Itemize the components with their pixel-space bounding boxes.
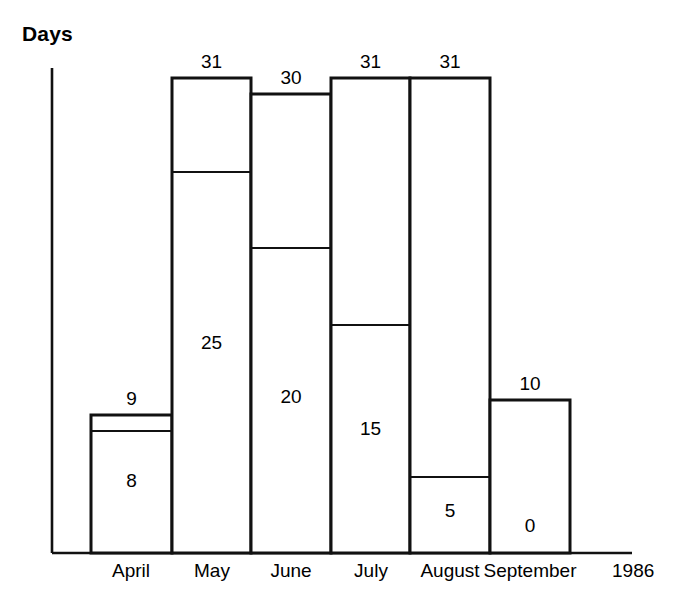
bar-july[interactable] bbox=[331, 78, 410, 553]
inner-label-august-5: 5 bbox=[410, 500, 490, 522]
inner-label-september-0: 0 bbox=[490, 515, 570, 537]
bar-may[interactable] bbox=[172, 78, 251, 553]
value-label-july: 31 bbox=[331, 51, 410, 73]
x-axis-year-label: 1986 bbox=[612, 560, 654, 582]
value-label-september: 10 bbox=[490, 373, 570, 395]
value-label-may: 31 bbox=[172, 51, 251, 73]
inner-label-april-8: 8 bbox=[91, 470, 172, 492]
value-label-april: 9 bbox=[91, 388, 172, 410]
bar-june[interactable] bbox=[251, 94, 331, 553]
chart-container: Days 9 31 30 31 31 10 8 25 20 15 5 0 Apr… bbox=[0, 0, 700, 616]
value-label-august: 31 bbox=[410, 51, 490, 73]
inner-label-june-20: 20 bbox=[251, 386, 331, 408]
inner-label-july-15: 15 bbox=[331, 418, 410, 440]
x-tick-label-september: September bbox=[480, 560, 580, 582]
bar-august[interactable] bbox=[410, 78, 490, 553]
inner-label-may-25: 25 bbox=[172, 332, 251, 354]
bar-chart-plot bbox=[0, 0, 700, 616]
value-label-june: 30 bbox=[251, 67, 331, 89]
